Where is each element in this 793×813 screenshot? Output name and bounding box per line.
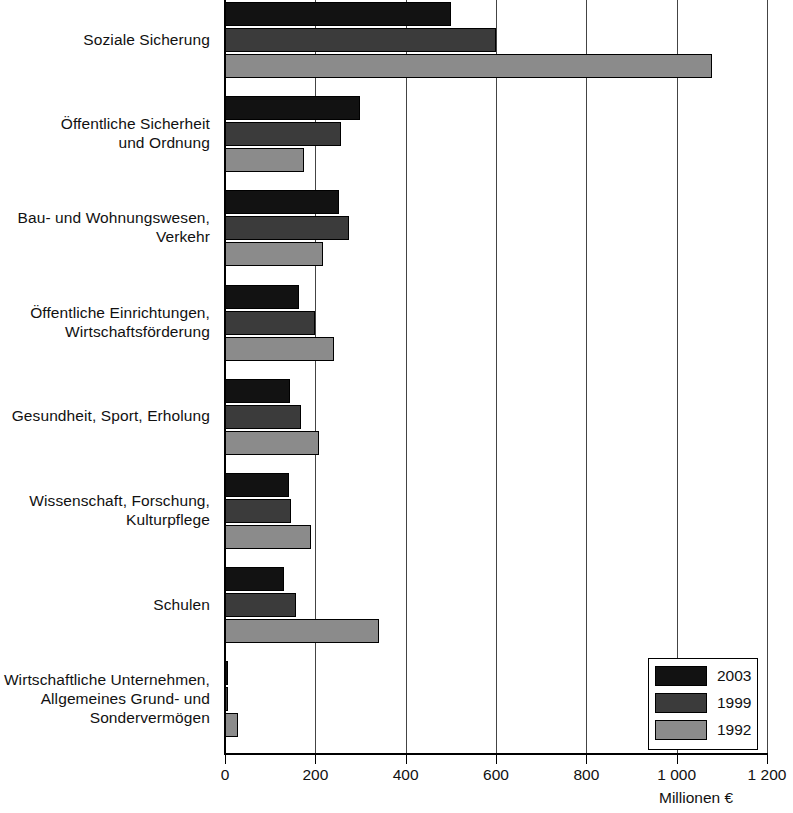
x-axis-tick [677,755,678,764]
category-label-3: Öffentliche Einrichtungen, Wirtschaftsfö… [0,303,218,341]
legend-item-2003: 2003 [655,665,751,687]
bar-2003-3 [225,285,299,309]
legend-label-1992: 1992 [717,721,751,739]
category-label-5: Wissenschaft, Forschung, Kulturpflege [0,491,218,529]
bar-2003-7 [225,661,228,685]
category-axis-labels: Soziale SicherungÖffentliche Sicherheit … [0,0,218,760]
bar-2003-4 [225,379,290,403]
x-axis-tick-label: 200 [302,766,328,784]
bar-1992-7 [225,713,238,737]
legend: 200319991992 [648,658,758,750]
legend-item-1999: 1999 [655,692,751,714]
legend-item-1992: 1992 [655,719,751,741]
category-label-2: Bau- und Wohnungswesen, Verkehr [0,208,218,246]
gridline [677,0,678,753]
bar-1992-5 [225,525,311,549]
gridline [496,0,497,753]
legend-label-2003: 2003 [717,667,751,685]
category-label-7: Wirtschaftliche Unternehmen, Allgemeines… [0,670,218,727]
x-axis-tick-label: 1 000 [657,766,696,784]
legend-swatch-1992 [655,720,707,740]
x-axis-unit-label: Millionen € [659,789,733,807]
plot-area: 02004006008001 0001 200 [224,0,768,755]
legend-swatch-1999 [655,693,707,713]
bar-2003-0 [225,2,451,26]
category-label-4: Gesundheit, Sport, Erholung [0,406,218,425]
bar-2003-2 [225,190,339,214]
bar-2003-5 [225,473,289,497]
legend-label-1999: 1999 [717,694,751,712]
bar-2003-1 [225,96,360,120]
bar-1992-3 [225,337,334,361]
x-axis-tick [406,755,407,764]
x-axis-tick-label: 400 [393,766,419,784]
x-axis-tick [586,755,587,764]
x-axis-tick [767,755,768,764]
x-axis-tick [315,755,316,764]
x-axis-tick [225,755,226,764]
x-axis-tick-label: 800 [573,766,599,784]
bar-1992-2 [225,242,323,266]
legend-swatch-2003 [655,666,707,686]
bar-1999-6 [225,593,296,617]
x-axis-tick-label: 600 [483,766,509,784]
x-axis-tick-label: 0 [221,766,230,784]
bar-1992-0 [225,54,712,78]
bar-1992-4 [225,431,319,455]
gridline [586,0,587,753]
x-axis-tick [496,755,497,764]
gridline [406,0,407,753]
bar-1999-2 [225,216,349,240]
category-label-6: Schulen [0,595,218,614]
bar-chart: Soziale SicherungÖffentliche Sicherheit … [0,0,793,813]
x-axis-tick-label: 1 200 [748,766,787,784]
bar-1999-4 [225,405,301,429]
bar-1992-6 [225,619,379,643]
bar-1999-3 [225,311,315,335]
bar-2003-6 [225,567,284,591]
bar-1999-5 [225,499,291,523]
category-label-1: Öffentliche Sicherheit und Ordnung [0,114,218,152]
bar-1999-7 [225,687,228,711]
bar-1999-0 [225,28,496,52]
bar-1999-1 [225,122,341,146]
gridline [767,0,768,753]
bar-1992-1 [225,148,304,172]
category-label-0: Soziale Sicherung [0,30,218,49]
